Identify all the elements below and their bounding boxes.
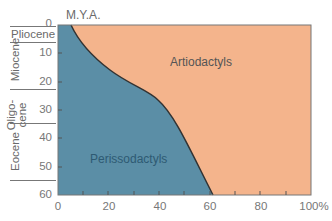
y-tick-10: 10	[30, 46, 52, 58]
x-tick-80: 80	[241, 200, 281, 212]
epoch-divider	[10, 180, 56, 181]
epoch-divider	[10, 26, 56, 27]
x-tick-60: 60	[190, 200, 230, 212]
x-tick-40: 40	[140, 200, 180, 212]
epoch-divider	[10, 123, 56, 124]
y-tick-50: 50	[30, 160, 52, 172]
y-tick-20: 20	[30, 75, 52, 87]
epoch-miocene: Miocene	[10, 35, 21, 85]
y-tick-40: 40	[30, 131, 52, 143]
epoch-eocene: Eocene	[10, 131, 21, 173]
y-axis-label: M.Y.A.	[66, 8, 100, 22]
x-tick-100: 100%	[294, 200, 332, 212]
y-tick-30: 30	[30, 103, 52, 115]
x-tick-20: 20	[89, 200, 129, 212]
perissodactyls-label: Perissodactyls	[90, 152, 167, 166]
epoch-oligocene: Oligo-cene	[6, 95, 28, 135]
artiodactyls-label: Artiodactyls	[170, 55, 232, 69]
y-tick-60: 60	[30, 188, 52, 200]
x-tick-0: 0	[38, 200, 78, 212]
epoch-divider	[10, 89, 56, 90]
